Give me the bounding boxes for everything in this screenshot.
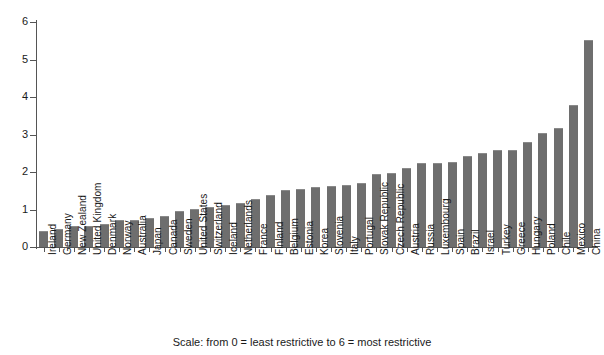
x-axis-tick (376, 248, 377, 252)
y-axis-tick (30, 172, 36, 173)
x-axis-category-label: New Zealand (78, 195, 88, 255)
x-axis-category-label: Brazil (471, 229, 481, 255)
bar-slot (309, 22, 324, 247)
x-axis-category-label: Sweden (184, 218, 194, 255)
bar-slot (521, 22, 536, 247)
x-axis-category-label: Luxembourg (441, 198, 451, 255)
x-axis-category-label: Chile (562, 232, 572, 255)
bar-slot (340, 22, 355, 247)
x-axis-tick (528, 248, 529, 252)
x-axis-tick (255, 248, 256, 252)
bar-slot (37, 22, 52, 247)
x-axis-tick (452, 248, 453, 252)
bar-slot (461, 22, 476, 247)
bar-slot (279, 22, 294, 247)
x-axis-tick (240, 248, 241, 252)
x-axis-category-label: Ireland (48, 224, 58, 255)
bar-slot (264, 22, 279, 247)
x-axis-tick (392, 248, 393, 252)
y-axis-tick-label: 2 (6, 166, 28, 177)
x-axis-category-label: Portugal (365, 217, 375, 255)
x-axis-category-label: Germany (63, 213, 73, 255)
bar-slot (173, 22, 188, 247)
bar-slot (506, 22, 521, 247)
x-axis-category-label: France (259, 223, 269, 255)
bar-slot (325, 22, 340, 247)
x-axis-tick (149, 248, 150, 252)
bar-slot (128, 22, 143, 247)
x-axis-tick (119, 248, 120, 252)
x-axis-category-label: Austria (411, 223, 421, 255)
x-axis-tick (89, 248, 90, 252)
x-axis-tick (210, 248, 211, 252)
x-axis-tick (422, 248, 423, 252)
x-axis-category-label: Poland (547, 223, 557, 255)
x-axis-category-label: Slovak Republic (380, 182, 390, 255)
x-axis-tick (588, 248, 589, 252)
x-axis-category-label: Greece (517, 222, 527, 255)
x-axis-category-label: Hungary (532, 217, 542, 256)
x-axis-tick (59, 248, 60, 252)
x-axis-category-label: Korea (320, 228, 330, 255)
x-axis-tick (286, 248, 287, 252)
x-axis-tick (195, 248, 196, 252)
x-axis-category-label: Czech Republic (396, 184, 406, 255)
x-axis-tick (573, 248, 574, 252)
x-axis-tick (331, 248, 332, 252)
bar-slot (552, 22, 567, 247)
y-axis-tick-label: 3 (6, 129, 28, 140)
bar-slot (476, 22, 491, 247)
x-axis-category-label: Iceland (229, 222, 239, 255)
x-axis-category-label: Finland (275, 222, 285, 256)
bar-chart: 0123456 IrelandGermanyNew ZealandUnited … (0, 0, 604, 355)
bar-slot (567, 22, 582, 247)
x-axis-category-label: Slovenia (335, 216, 345, 255)
x-axis-category-label: United Kingdom (93, 182, 103, 255)
x-axis-tick (467, 248, 468, 252)
x-axis-category-label: Belgium (290, 218, 300, 255)
y-axis-tick-label: 5 (6, 54, 28, 65)
x-axis-category-label: Switzerland (214, 202, 224, 255)
y-axis-tick (30, 135, 36, 136)
x-axis-tick (346, 248, 347, 252)
y-axis-tick (30, 97, 36, 98)
x-axis-category-label: Canada (169, 219, 179, 255)
bar-slot (158, 22, 173, 247)
x-axis-tick (134, 248, 135, 252)
x-axis-tick (543, 248, 544, 252)
y-axis-tick-label: 0 (6, 241, 28, 252)
bar (584, 40, 593, 247)
y-axis-tick-label: 4 (6, 91, 28, 102)
y-axis-tick (30, 247, 36, 248)
x-axis-line (36, 247, 598, 248)
x-axis-tick (437, 248, 438, 252)
x-axis-category-label: Mexico (577, 223, 587, 255)
x-axis-tick (165, 248, 166, 252)
x-axis-category-label: China (592, 228, 602, 255)
bar-slot (294, 22, 309, 247)
x-axis-category-label: United States (199, 194, 209, 255)
bar-slot (582, 22, 597, 247)
y-axis-tick-label: 6 (6, 16, 28, 27)
x-axis-category-label: Australia (138, 215, 148, 255)
bar-slot (415, 22, 430, 247)
x-axis-tick (513, 248, 514, 252)
x-axis-tick (271, 248, 272, 252)
x-axis-category-label: Denmark (108, 214, 118, 255)
y-axis-tick (30, 60, 36, 61)
x-axis-tick (361, 248, 362, 252)
x-axis-tick (180, 248, 181, 252)
x-axis-tick (44, 248, 45, 252)
x-axis-category-label: Norway (123, 221, 133, 256)
x-axis-category-label: Spain (456, 229, 466, 255)
x-axis-category-label: Estonia (305, 221, 315, 255)
y-axis-tick (30, 22, 36, 23)
x-axis-tick (407, 248, 408, 252)
y-axis-tick-label: 1 (6, 204, 28, 215)
x-axis-category-label: Italy (350, 236, 360, 255)
y-axis-tick (30, 210, 36, 211)
x-axis-tick (498, 248, 499, 252)
x-axis-category-label: Turkey (502, 224, 512, 255)
x-axis-tick (225, 248, 226, 252)
chart-caption: Scale: from 0 = least restrictive to 6 =… (0, 336, 604, 348)
